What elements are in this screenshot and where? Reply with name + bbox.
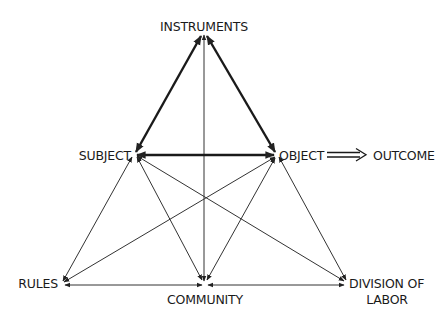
edge-object-instruments (207, 36, 275, 152)
node-community: COMMUNITY (167, 292, 243, 307)
node-outcome: OUTCOME (373, 148, 435, 163)
bold-edges (136, 36, 275, 155)
node-instruments: INSTRUMENTS (160, 19, 248, 34)
diagram-svg: INSTRUMENTS SUBJECT OBJECT OUTCOME RULES… (0, 0, 446, 317)
node-rules: RULES (18, 276, 58, 291)
node-object: OBJECT (279, 148, 325, 163)
activity-theory-diagram: INSTRUMENTS SUBJECT OBJECT OUTCOME RULES… (0, 0, 446, 317)
node-division-of-labor-line1: DIVISION OF (349, 276, 424, 291)
node-division-of-labor-line2: LABOR (366, 292, 408, 307)
double-arrow-outcome (327, 149, 366, 162)
node-subject: SUBJECT (79, 148, 132, 163)
edge-subject-instruments (136, 36, 201, 152)
